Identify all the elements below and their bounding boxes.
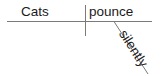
subject-word: Cats [21,5,49,19]
sentence-diagram: Cats pounce silently [0,0,165,76]
verb-word: pounce [89,5,133,19]
